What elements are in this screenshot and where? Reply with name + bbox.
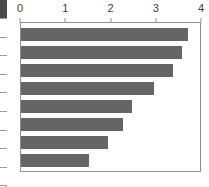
bar[interactable] [21,28,188,41]
row-label-column [0,0,7,187]
row-label-rows [0,19,7,187]
row-label-header-cell [0,0,7,19]
bar-row [21,116,200,134]
bar[interactable] [21,154,89,167]
x-axis-tick-label: 2 [107,1,113,15]
row-label-cell[interactable] [0,75,7,94]
bar-row [21,62,200,80]
x-axis-tick-label: 0 [17,1,23,15]
row-label-cell[interactable] [0,168,7,187]
bar[interactable] [21,46,182,59]
row-label-cell[interactable] [0,19,7,38]
bar-row [21,98,200,116]
row-label-cell[interactable] [0,93,7,112]
bar-row [21,44,200,62]
bar[interactable] [21,118,123,131]
bar-row [21,134,200,152]
row-label-cell[interactable] [0,38,7,57]
row-label-cell[interactable] [0,131,7,150]
bar[interactable] [21,64,173,77]
bar-series [21,23,200,171]
bar-chart: 01234 [20,0,202,187]
row-label-cell[interactable] [0,149,7,168]
plot-area [20,22,201,172]
x-axis-tick-labels: 01234 [20,0,202,18]
bar[interactable] [21,136,108,149]
bar-row [21,80,200,98]
chart-screenshot: 01234 [0,0,209,187]
bar-row [21,152,200,170]
bar[interactable] [21,82,154,95]
x-axis-tick-label: 3 [153,1,159,15]
bar[interactable] [21,100,132,113]
row-label-cell[interactable] [0,112,7,131]
row-label-cell[interactable] [0,56,7,75]
bar-row [21,26,200,44]
x-axis-tick-label: 4 [198,1,204,15]
x-axis-tick-label: 1 [62,1,68,15]
